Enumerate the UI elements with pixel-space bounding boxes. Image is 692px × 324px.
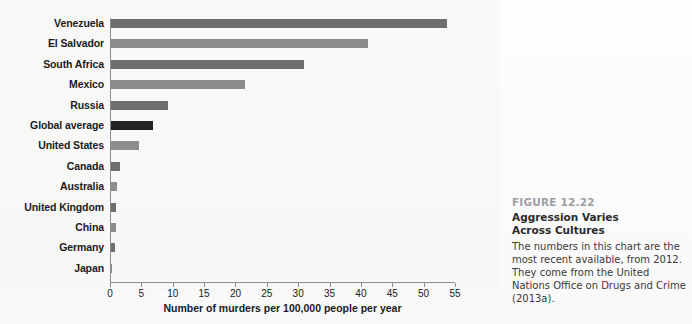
bar-south-africa — [110, 60, 304, 69]
figure-caption-body: The numbers in this chart are the most r… — [512, 240, 688, 305]
figure-title-line-2: Across Cultures — [512, 224, 688, 237]
category-label-united-states: United States — [0, 140, 104, 151]
x-tick-25 — [267, 283, 268, 287]
x-tick-label-40: 40 — [346, 288, 376, 299]
category-label-south-africa: South Africa — [0, 59, 104, 70]
bar-venezuela — [110, 19, 447, 28]
category-label-venezuela: Venezuela — [0, 18, 104, 29]
x-tick-50 — [424, 283, 425, 287]
category-label-mexico: Mexico — [0, 79, 104, 90]
bar-canada — [110, 162, 120, 171]
bar-chart: VenezuelaEl SalvadorSouth AfricaMexicoRu… — [0, 10, 500, 310]
bar-mexico — [110, 80, 245, 89]
category-label-russia: Russia — [0, 100, 104, 111]
x-tick-label-5: 5 — [126, 288, 156, 299]
x-tick-label-55: 55 — [440, 288, 470, 299]
x-tick-45 — [392, 283, 393, 287]
category-label-japan: Japan — [0, 263, 104, 274]
x-tick-label-0: 0 — [95, 288, 125, 299]
bar-united-states — [110, 141, 139, 150]
x-tick-55 — [455, 283, 456, 287]
x-tick-label-15: 15 — [189, 288, 219, 299]
bar-russia — [110, 101, 168, 110]
x-tick-label-10: 10 — [158, 288, 188, 299]
y-axis-line — [110, 18, 111, 283]
category-label-australia: Australia — [0, 181, 104, 192]
category-label-united-kingdom: United Kingdom — [0, 202, 104, 213]
x-tick-label-45: 45 — [377, 288, 407, 299]
x-tick-0 — [110, 283, 111, 287]
x-tick-35 — [330, 283, 331, 287]
x-tick-label-30: 30 — [283, 288, 313, 299]
x-tick-30 — [298, 283, 299, 287]
category-label-el-salvador: El Salvador — [0, 38, 104, 49]
bar-global-average — [110, 121, 153, 130]
figure-caption: FIGURE 12.22 Aggression Varies Across Cu… — [512, 196, 688, 305]
x-tick-40 — [361, 283, 362, 287]
x-tick-label-50: 50 — [409, 288, 439, 299]
x-axis-title: Number of murders per 100,000 people per… — [110, 302, 455, 314]
category-label-global-average: Global average — [0, 120, 104, 131]
x-tick-20 — [235, 283, 236, 287]
x-tick-15 — [204, 283, 205, 287]
x-tick-10 — [173, 283, 174, 287]
figure-title-line-1: Aggression Varies — [512, 211, 688, 224]
x-tick-label-25: 25 — [252, 288, 282, 299]
x-tick-label-35: 35 — [315, 288, 345, 299]
x-axis-line — [110, 282, 455, 283]
figure-12-22: VenezuelaEl SalvadorSouth AfricaMexicoRu… — [0, 0, 692, 324]
bar-el-salvador — [110, 39, 368, 48]
category-label-canada: Canada — [0, 161, 104, 172]
category-label-germany: Germany — [0, 242, 104, 253]
x-tick-5 — [141, 283, 142, 287]
x-tick-label-20: 20 — [220, 288, 250, 299]
category-label-china: China — [0, 222, 104, 233]
bar-australia — [110, 182, 117, 191]
figure-title: Aggression Varies Across Cultures — [512, 211, 688, 236]
figure-number-label: FIGURE 12.22 — [512, 196, 688, 208]
